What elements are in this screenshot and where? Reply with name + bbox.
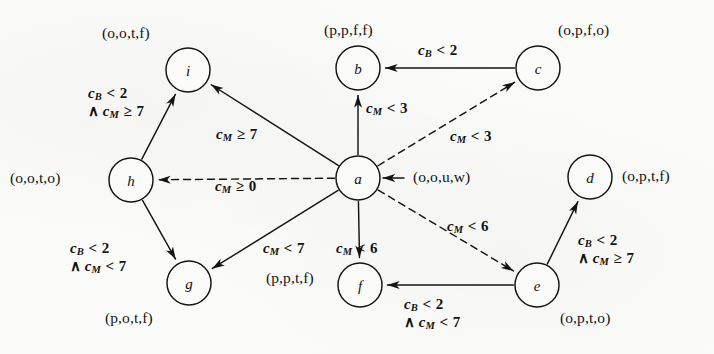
guard-label-a-to-e: cM < 6 (447, 218, 489, 236)
state-tuple-label-f: (p,p,t,f) (266, 270, 314, 287)
state-tuple-label-e: (o,p,t,o) (560, 310, 610, 327)
state-node-label-a: a (354, 170, 362, 187)
state-tuple-label-g: (p,o,t,f) (105, 310, 153, 327)
transition-edge-h-to-i[interactable] (142, 94, 176, 159)
state-node-label-c: c (535, 60, 542, 77)
guard-label-a-to-f: cM < 6 (336, 240, 378, 258)
figure-canvas: ibchadgfe (o,o,t,f)(p,p,f,f)(o,p,f,o)(o,… (0, 0, 714, 354)
guard-label-a-to-g: cM < 7 (263, 240, 305, 258)
guard-label-h-to-g: cB < 2∧ cM < 7 (70, 240, 126, 275)
guard-label-a-to-i: cM ≥ 7 (216, 126, 257, 144)
state-tuple-label-b: (p,p,f,f) (324, 22, 373, 39)
state-node-label-e: e (534, 277, 541, 294)
transition-edge-a-to-c[interactable] (378, 82, 514, 165)
transition-edge-h-to-g[interactable] (143, 200, 176, 259)
state-node-label-d: d (586, 169, 594, 186)
state-node-label-b: b (354, 60, 362, 77)
guard-label-a-to-h: cM ≥ 0 (215, 178, 256, 196)
guard-label-e-to-d: cB < 2∧ cM ≥ 7 (578, 232, 634, 267)
state-node-label-g: g (185, 275, 193, 292)
guard-label-c-to-b: cB < 2 (418, 42, 457, 60)
state-tuple-label-c: (o,p,f,o) (558, 22, 609, 39)
transition-edge-a-to-e[interactable] (378, 190, 513, 271)
state-tuple-label-i: (o,o,t,f) (102, 25, 150, 42)
guard-label-h-to-i: cB < 2∧ cM ≥ 7 (88, 85, 144, 120)
state-node-label-h: h (127, 172, 135, 189)
guard-label-e-to-f: cB < 2∧ cM < 7 (404, 296, 460, 331)
state-node-label-i: i (186, 62, 190, 79)
guard-label-a-to-b: cM < 3 (366, 100, 408, 118)
transition-edge-e-to-d[interactable] (547, 202, 578, 264)
state-tuple-label-h: (o,o,t,o) (10, 170, 60, 187)
state-node-label-f: f (358, 277, 362, 294)
state-tuple-label-d: (o,p,t,f) (622, 168, 670, 185)
state-tuple-label-a: (o,o,u,w) (413, 169, 470, 186)
guard-label-a-to-c: cM < 3 (450, 128, 492, 146)
